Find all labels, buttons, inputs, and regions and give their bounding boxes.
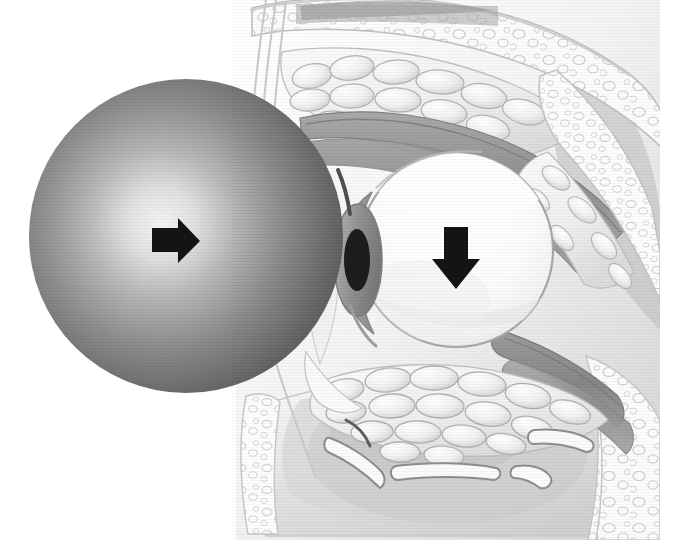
orbital-blowout-fracture-illustration	[0, 0, 681, 540]
illustration-canvas	[0, 0, 681, 540]
print-scanline-texture	[232, 0, 660, 540]
